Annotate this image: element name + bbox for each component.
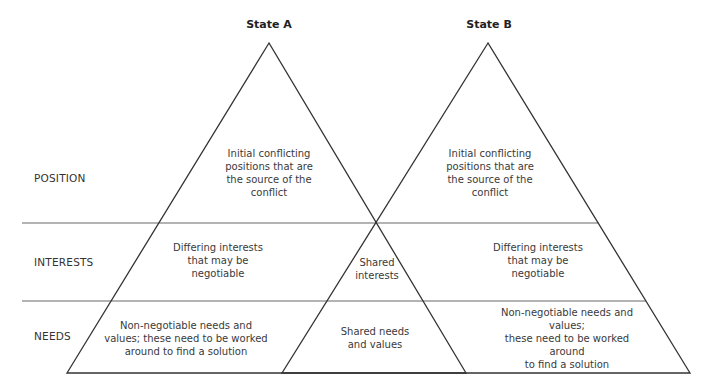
state-a-title: State A xyxy=(246,18,292,31)
state-b-interests-text: Differing interests that may be negotiab… xyxy=(493,241,583,280)
row-label-interests: INTERESTS xyxy=(34,256,93,268)
state-a-needs-text: Non-negotiable needs and values; these n… xyxy=(104,319,267,358)
state-a-interests-text: Differing interests that may be negotiab… xyxy=(173,241,263,280)
shared-interests-text: Shared interests xyxy=(355,256,399,282)
row-label-position: POSITION xyxy=(34,172,86,184)
state-b-position-text: Initial conflicting positions that are t… xyxy=(446,147,534,199)
state-b-needs-text: Non-negotiable needs and values; these n… xyxy=(494,306,640,371)
state-a-position-text: Initial conflicting positions that are t… xyxy=(225,147,313,199)
row-label-needs: NEEDS xyxy=(34,330,71,342)
shared-needs-text: Shared needs and values xyxy=(341,325,410,351)
state-b-title: State B xyxy=(466,18,512,31)
